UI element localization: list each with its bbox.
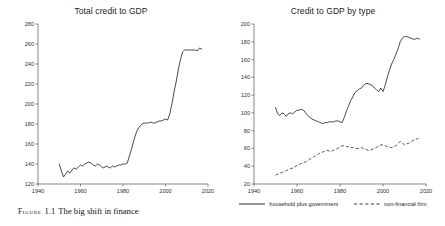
legend-label-household-plus-government: household plus government <box>269 201 338 207</box>
y-tick-label: 220 <box>25 81 34 87</box>
figure-caption: Figure1.1The big shift in finance <box>18 206 139 216</box>
legend-swatch-solid <box>239 201 265 207</box>
x-tick-label: 1980 <box>117 188 129 194</box>
chart-svg-total-credit: 1201401601802002202402602801940196019802… <box>0 0 222 200</box>
chart-title-right: Credit to GDP by type <box>222 6 444 16</box>
y-tick-label: 20 <box>244 181 250 187</box>
x-tick-label: 2000 <box>159 188 171 194</box>
series-line <box>59 48 201 177</box>
x-tick-label: 1980 <box>334 188 346 194</box>
y-tick-label: 160 <box>241 57 250 63</box>
y-tick-label: 260 <box>25 41 34 47</box>
chart-legend: household plus government non-financial … <box>222 196 444 212</box>
chart-panels: Total credit to GDP 12014016018020022024… <box>0 0 445 200</box>
chart-title-left: Total credit to GDP <box>0 6 222 16</box>
chart-panel-total-credit: Total credit to GDP 12014016018020022024… <box>0 0 222 200</box>
y-tick-label: 80 <box>244 128 250 134</box>
legend-label-non-financial-firm: non-financial firm <box>384 201 427 207</box>
x-tick-label: 2020 <box>202 188 214 194</box>
x-tick-label: 1960 <box>291 188 303 194</box>
chart-svg-credit-by-type: 2040608010012014016018020019401960198020… <box>222 0 444 200</box>
y-tick-label: 280 <box>25 21 34 27</box>
x-tick-label: 1960 <box>74 188 86 194</box>
x-tick-label: 2020 <box>420 188 432 194</box>
figure-container: Total credit to GDP 12014016018020022024… <box>0 0 445 226</box>
chart-panel-credit-by-type: Credit to GDP by type 204060801001201401… <box>222 0 444 200</box>
y-tick-label: 120 <box>25 181 34 187</box>
y-tick-label: 160 <box>25 141 34 147</box>
y-tick-label: 180 <box>241 39 250 45</box>
y-tick-label: 180 <box>25 121 34 127</box>
y-tick-label: 140 <box>25 161 34 167</box>
y-tick-label: 200 <box>241 21 250 27</box>
y-tick-label: 100 <box>241 110 250 116</box>
series-line <box>276 36 420 123</box>
caption-text: The big shift in finance <box>58 206 138 216</box>
caption-number: 1.1 <box>45 206 56 216</box>
caption-kicker: Figure <box>18 207 42 216</box>
x-tick-label: 1940 <box>32 188 44 194</box>
y-tick-label: 120 <box>241 92 250 98</box>
legend-entry-household-plus-government: household plus government <box>239 201 338 207</box>
legend-swatch-dashed <box>354 201 380 207</box>
y-tick-label: 240 <box>25 61 34 67</box>
y-tick-label: 200 <box>25 101 34 107</box>
legend-entry-non-financial-firm: non-financial firm <box>354 201 427 207</box>
series-line <box>276 138 420 175</box>
x-tick-label: 2000 <box>377 188 389 194</box>
y-tick-label: 60 <box>244 145 250 151</box>
x-tick-label: 1940 <box>248 188 260 194</box>
y-tick-label: 40 <box>244 163 250 169</box>
y-tick-label: 140 <box>241 74 250 80</box>
